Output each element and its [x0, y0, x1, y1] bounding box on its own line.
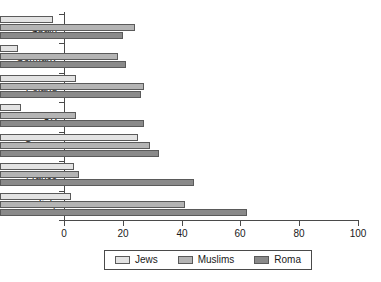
legend-swatch-jews — [115, 256, 130, 264]
legend-label: Muslims — [198, 255, 235, 265]
x-axis-label-0: 0 — [44, 228, 84, 239]
x-axis-label-100: 100 — [338, 228, 378, 239]
x-tick — [299, 221, 300, 226]
bar-group — [0, 73, 381, 102]
x-axis-label-80: 80 — [279, 228, 319, 239]
bar-muslims-greece — [0, 142, 150, 149]
legend-item-muslims: Muslims — [178, 255, 235, 265]
bar-jews-germany — [0, 45, 18, 52]
bar-group — [0, 132, 381, 161]
x-tick — [123, 221, 124, 226]
bar-roma-germany — [0, 61, 126, 68]
bar-group — [0, 43, 381, 72]
bar-muslims-france — [0, 171, 79, 178]
x-tick — [64, 221, 65, 226]
legend-item-roma: Roma — [254, 255, 301, 265]
chart-legend: JewsMuslimsRoma — [104, 250, 312, 270]
x-tick — [240, 221, 241, 226]
bar-jews-uk — [0, 104, 21, 111]
bar-roma-greece — [0, 150, 159, 157]
bar-muslims-spain — [0, 24, 135, 31]
bar-roma-poland — [0, 91, 141, 98]
x-tick — [182, 221, 183, 226]
bar-muslims-uk — [0, 112, 76, 119]
bar-jews-spain — [0, 16, 53, 23]
x-tick — [358, 221, 359, 226]
bar-muslims-poland — [0, 83, 144, 90]
bar-group — [0, 161, 381, 190]
legend-label: Roma — [274, 255, 301, 265]
bar-chart: SpainGermanyPolandUKGreeceFranceItaly 02… — [0, 0, 381, 282]
x-axis-label-60: 60 — [220, 228, 260, 239]
legend-swatch-roma — [254, 256, 269, 264]
x-axis-label-20: 20 — [103, 228, 143, 239]
bar-roma-italy — [0, 209, 247, 216]
bar-muslims-italy — [0, 201, 185, 208]
bar-roma-spain — [0, 32, 123, 39]
x-axis-label-40: 40 — [162, 228, 202, 239]
bar-muslims-germany — [0, 53, 118, 60]
bar-jews-france — [0, 163, 74, 170]
bar-group — [0, 102, 381, 131]
legend-item-jews: Jews — [115, 255, 158, 265]
legend-label: Jews — [135, 255, 158, 265]
bar-group — [0, 14, 381, 43]
bar-jews-greece — [0, 134, 138, 141]
bar-jews-poland — [0, 75, 76, 82]
bar-roma-france — [0, 179, 194, 186]
bar-roma-uk — [0, 120, 144, 127]
legend-swatch-muslims — [178, 256, 193, 264]
x-axis-line — [64, 220, 359, 221]
bar-jews-italy — [0, 193, 71, 200]
bar-group — [0, 191, 381, 220]
